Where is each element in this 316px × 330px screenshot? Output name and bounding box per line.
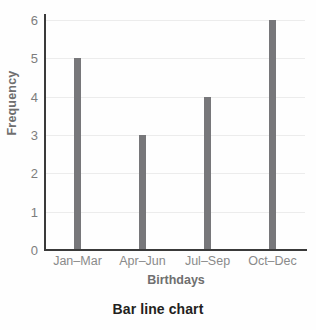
- x-axis-tick-labels: Jan–MarApr–JunJul–SepOct–Dec: [45, 253, 307, 271]
- gridline: [45, 173, 305, 174]
- plot-area: [45, 20, 305, 250]
- gridline: [45, 97, 305, 98]
- x-axis-tick-label: Apr–Jun: [110, 253, 176, 269]
- y-axis-title: Frequency: [5, 53, 19, 153]
- gridline: [45, 135, 305, 136]
- y-axis-tick-label: 1: [8, 205, 38, 218]
- bar: [74, 58, 81, 250]
- x-axis-tick-label: Jul–Sep: [175, 253, 241, 269]
- bar: [139, 135, 146, 250]
- gridline: [45, 58, 305, 59]
- y-axis-line: [44, 14, 46, 251]
- gridline: [45, 20, 305, 21]
- x-axis-tick-label: Oct–Dec: [240, 253, 306, 269]
- x-axis-line: [45, 249, 307, 251]
- bar-line-chart-figure: 0123456 Frequency Jan–MarApr–JunJul–SepO…: [0, 0, 316, 330]
- bar: [269, 20, 276, 250]
- y-axis-tick-label: 6: [8, 14, 38, 27]
- x-axis-title: Birthdays: [45, 273, 307, 287]
- x-axis-tick-label: Jan–Mar: [45, 253, 111, 269]
- gridline: [45, 212, 305, 213]
- bar: [204, 97, 211, 250]
- y-axis-tick-label: 0: [8, 244, 38, 257]
- y-axis-tick-label: 2: [8, 167, 38, 180]
- chart-caption: Bar line chart: [0, 301, 316, 317]
